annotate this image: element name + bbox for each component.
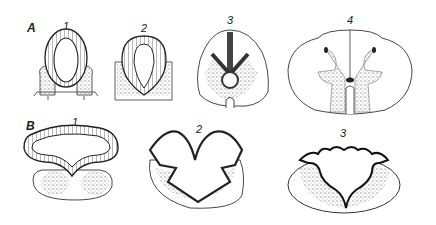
panel-b1: [24, 125, 118, 200]
panel-a1: [34, 29, 98, 100]
neural-tube-diagram: [0, 0, 436, 225]
panel-b2: [150, 131, 244, 208]
panel-a4: [288, 30, 412, 114]
panel-a3: [198, 30, 269, 108]
panel-a2: [115, 36, 172, 100]
panel-b3: [288, 147, 400, 213]
